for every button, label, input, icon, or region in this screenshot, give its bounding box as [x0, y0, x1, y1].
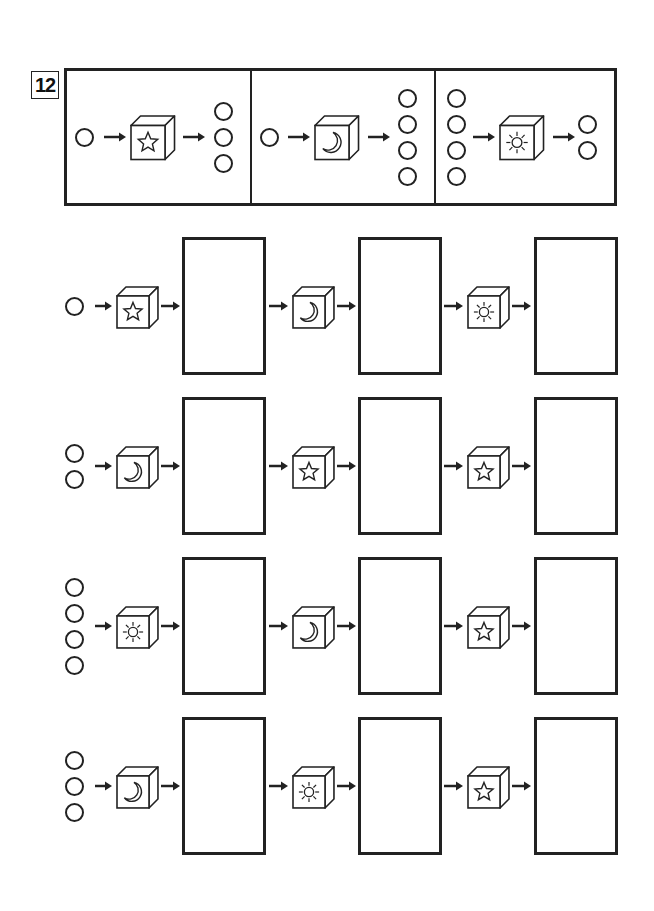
arrow-right-icon: [95, 461, 112, 471]
circle-icon: [65, 751, 84, 770]
arrow-right-icon: [512, 461, 531, 471]
star-box-icon: [467, 446, 510, 489]
circle-icon: [65, 297, 84, 316]
star-box-icon: [116, 286, 159, 329]
arrow-right-icon: [444, 621, 463, 631]
circle-icon: [65, 630, 84, 649]
circle-icon: [65, 604, 84, 623]
legend-divider: [434, 71, 436, 203]
circle-icon: [578, 141, 597, 160]
arrow-right-icon: [337, 621, 356, 631]
arrow-right-icon: [512, 621, 531, 631]
arrow-right-icon: [512, 301, 531, 311]
arrow-right-icon: [161, 461, 180, 471]
circle-icon: [447, 115, 466, 134]
moon-box-icon: [116, 446, 159, 489]
arrow-right-icon: [288, 132, 310, 142]
star-box-icon: [467, 766, 510, 809]
moon-box-icon: [292, 286, 335, 329]
answer-box[interactable]: [358, 717, 442, 855]
arrow-right-icon: [553, 132, 575, 142]
sun-box-icon: [292, 766, 335, 809]
circle-icon: [65, 777, 84, 796]
circle-icon: [447, 89, 466, 108]
circle-icon: [214, 128, 233, 147]
arrow-right-icon: [95, 621, 112, 631]
arrow-right-icon: [95, 781, 112, 791]
circle-icon: [65, 803, 84, 822]
answer-box[interactable]: [358, 397, 442, 535]
circle-icon: [398, 167, 417, 186]
arrow-right-icon: [183, 132, 205, 142]
arrow-right-icon: [269, 621, 288, 631]
answer-box[interactable]: [534, 717, 618, 855]
answer-box[interactable]: [358, 557, 442, 695]
arrow-right-icon: [444, 461, 463, 471]
circle-icon: [214, 154, 233, 173]
arrow-right-icon: [161, 781, 180, 791]
arrow-right-icon: [368, 132, 390, 142]
arrow-right-icon: [269, 781, 288, 791]
arrow-right-icon: [269, 301, 288, 311]
arrow-right-icon: [444, 781, 463, 791]
circle-icon: [398, 89, 417, 108]
circle-icon: [578, 115, 597, 134]
arrow-right-icon: [473, 132, 495, 142]
arrow-right-icon: [512, 781, 531, 791]
arrow-right-icon: [337, 301, 356, 311]
answer-box[interactable]: [182, 237, 266, 375]
legend-divider: [250, 71, 252, 203]
sun-box-icon: [116, 606, 159, 649]
problem-number: 12: [31, 71, 59, 99]
arrow-right-icon: [161, 621, 180, 631]
circle-icon: [398, 141, 417, 160]
answer-box[interactable]: [534, 557, 618, 695]
answer-box[interactable]: [358, 237, 442, 375]
circle-icon: [260, 128, 279, 147]
circle-icon: [65, 470, 84, 489]
arrow-right-icon: [95, 301, 112, 311]
arrow-right-icon: [337, 781, 356, 791]
circle-icon: [75, 128, 94, 147]
circle-icon: [398, 115, 417, 134]
moon-box-icon: [314, 115, 360, 161]
arrow-right-icon: [444, 301, 463, 311]
circle-icon: [447, 167, 466, 186]
arrow-right-icon: [337, 461, 356, 471]
moon-box-icon: [116, 766, 159, 809]
answer-box[interactable]: [534, 237, 618, 375]
arrow-right-icon: [104, 132, 126, 142]
star-box-icon: [292, 446, 335, 489]
circle-icon: [65, 444, 84, 463]
answer-box[interactable]: [182, 717, 266, 855]
circle-icon: [65, 578, 84, 597]
moon-box-icon: [292, 606, 335, 649]
circle-icon: [447, 141, 466, 160]
circle-icon: [65, 656, 84, 675]
answer-box[interactable]: [182, 397, 266, 535]
answer-box[interactable]: [182, 557, 266, 695]
sun-box-icon: [499, 115, 545, 161]
circle-icon: [214, 102, 233, 121]
arrow-right-icon: [269, 461, 288, 471]
sun-box-icon: [467, 286, 510, 329]
star-box-icon: [130, 115, 176, 161]
answer-box[interactable]: [534, 397, 618, 535]
star-box-icon: [467, 606, 510, 649]
arrow-right-icon: [161, 301, 180, 311]
